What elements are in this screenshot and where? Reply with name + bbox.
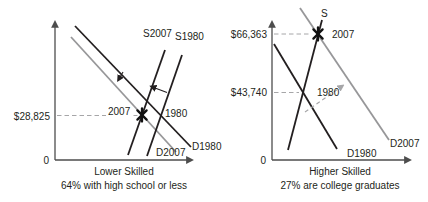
right-price-top-label: $66,363 [231,29,268,40]
right-eq1980-label: 1980 [317,87,340,98]
right-eq2007-label: 2007 [332,29,355,40]
left-supply-shift-arrow [151,87,167,93]
left-eq2007-label: 2007 [108,106,131,117]
left-price-label: $28,825 [14,111,51,122]
left-demand-1980-line [75,26,191,147]
left-equilibrium-2007-marker [137,109,146,122]
right-equilibrium-2007-marker [313,28,322,41]
left-supply-2007-line [128,50,165,155]
wage-supply-demand-figure: 0 $28,825 S2007 S1980 D2007 D1980 2007 1… [0,0,428,202]
left-s2007-label: S2007 [143,28,172,39]
left-d1980-label: D1980 [192,141,222,152]
left-caption-subtitle: 64% with high school or less [61,180,187,191]
right-price-mid-label: $43,740 [231,87,268,98]
figure-canvas: 0 $28,825 S2007 S1980 D2007 D1980 2007 1… [0,0,428,202]
left-s1980-label: S1980 [175,31,204,42]
right-origin-label: 0 [260,155,266,166]
left-demand-2007-line [71,37,176,152]
left-d2007-label: D2007 [156,147,186,158]
right-s-label: S [321,8,328,19]
right-caption-title: Higher Skilled [309,166,371,177]
right-demand-2007-line [300,8,389,140]
panel-higher-skilled: 0 $66,363 $43,740 S 2007 1980 D1980 D200… [231,8,420,191]
right-d1980-label: D1980 [347,148,377,159]
left-eq1980-label: 1980 [165,108,188,119]
panel-lower-skilled: 0 $28,825 S2007 S1980 D2007 D1980 2007 1… [14,22,222,191]
left-caption-title: Lower Skilled [94,166,153,177]
right-d2007-label: D2007 [390,138,420,149]
left-origin-label: 0 [43,155,49,166]
right-caption-subtitle: 27% are college graduates [281,180,400,191]
